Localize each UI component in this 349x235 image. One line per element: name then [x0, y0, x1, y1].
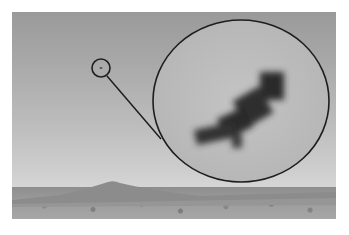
- annotation-overlay: [0, 0, 349, 235]
- distant-object: [100, 67, 103, 69]
